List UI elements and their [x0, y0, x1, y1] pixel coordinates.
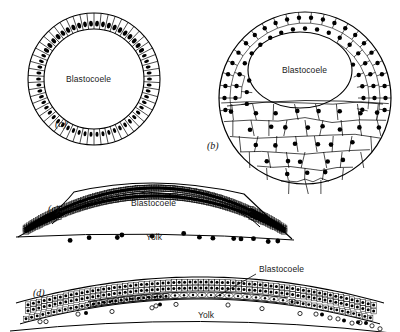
panel-d-nucleus	[369, 316, 372, 319]
panel-c-label: (c)	[48, 203, 59, 214]
panel-d-nucleus	[70, 299, 73, 302]
panel-d-nucleus	[246, 296, 248, 298]
panel-d-nucleus	[102, 294, 105, 297]
panel-b-nucleus	[222, 96, 226, 100]
panel-b-nucleus	[237, 72, 241, 76]
panel-d-nucleus	[183, 287, 186, 290]
panel-d-nucleus	[351, 298, 354, 301]
panel-b-nucleus	[268, 36, 272, 40]
panel-b-nucleus	[283, 125, 288, 130]
panel-d-nucleus	[324, 299, 327, 302]
panel-d-nucleus	[221, 287, 224, 290]
panel-d-nucleus	[91, 295, 94, 298]
panel-d-yolk-granule	[298, 311, 302, 315]
panel-d-nucleus	[162, 282, 165, 285]
panel-c-yolk-nucleus	[115, 235, 120, 240]
panel-d-nucleus	[109, 300, 112, 303]
panel-b-nucleus	[362, 41, 366, 45]
panel-b-nucleus	[291, 27, 295, 31]
panel-b-nucleus	[273, 21, 277, 25]
panel-d-nucleus	[69, 307, 72, 310]
panel-b-nucleus	[248, 127, 253, 132]
panel-d-yolk-granule	[328, 316, 332, 320]
panel-d-nucleus	[86, 296, 89, 299]
panel-b-cavity-label: Blastocoele	[282, 65, 327, 75]
panel-d-nucleus	[156, 282, 159, 285]
panel-b-nucleus	[377, 125, 382, 130]
panel-b-nucleus	[368, 72, 372, 76]
panel-b-nucleus	[357, 73, 361, 77]
panel-d-nucleus	[259, 289, 262, 292]
panel-d-nucleus	[189, 281, 192, 284]
panel-d-nucleus	[172, 281, 175, 284]
panel-b-nucleus	[372, 96, 376, 100]
panel-d-nucleus	[296, 301, 299, 304]
panel-c-yolk-nucleus	[251, 236, 256, 241]
panel-d-nucleus	[243, 288, 246, 291]
panel-c-cavity-label: Blastocoele	[131, 198, 176, 208]
panel-d-yolk-granule	[44, 320, 48, 324]
panel-d-nucleus	[59, 302, 62, 305]
panel-d-nucleus	[232, 281, 235, 284]
panel-b-nucleus	[338, 36, 342, 40]
panel-d-nucleus	[307, 303, 310, 306]
panel-d-nucleus	[64, 294, 67, 297]
panel-d-nucleus	[81, 305, 84, 308]
panel-d-yolk-envelope	[10, 321, 392, 332]
panel-d-yolk-granule	[260, 307, 264, 311]
panel-d-nucleus	[324, 293, 327, 296]
panel-d-nucleus	[75, 306, 78, 309]
panel-d-nucleus	[273, 298, 275, 300]
panel-d-nucleus	[367, 302, 370, 305]
panel-d-nucleus	[125, 298, 128, 301]
panel-b-nucleus	[320, 124, 325, 129]
panel-d-nucleus	[248, 282, 251, 285]
panel-d-label: (d)	[33, 287, 45, 298]
panel-d-nucleus	[48, 298, 51, 301]
panel-d-nucleus	[313, 304, 316, 307]
panel-d-nucleus	[347, 311, 350, 314]
panel-c-yolk-nucleus	[275, 239, 280, 244]
panel-b-nucleus	[223, 84, 227, 88]
panel-d-yolk-nucleus	[342, 318, 346, 322]
panel-b-nucleus	[273, 143, 278, 148]
panel-b-large-cell-boundary	[249, 152, 250, 168]
panel-a-cavity-label: Blastocoele	[66, 74, 111, 84]
panel-c-yolk-nucleus	[211, 236, 216, 241]
panel-d-nucleus	[114, 300, 117, 303]
panel-b-nucleus	[357, 125, 362, 130]
panel-d-nucleus	[318, 298, 321, 301]
panel-b-nucleus	[356, 51, 360, 55]
panel-d-nucleus	[358, 314, 361, 317]
panel-d-yolk-granule	[370, 324, 374, 328]
panel-d-nucleus	[86, 290, 89, 293]
panel-c-yolk-nucleus	[181, 231, 186, 236]
panel-d-nucleus	[248, 288, 251, 291]
panel-b-nucleus	[293, 142, 298, 147]
panel-d-yolk-nucleus	[320, 313, 324, 317]
panel-d-nucleus	[59, 296, 62, 299]
panel-d-nucleus	[120, 299, 123, 302]
panel-b-nucleus	[375, 110, 380, 115]
panel-d-nucleus	[159, 295, 162, 298]
panel-d-nucleus	[237, 288, 240, 291]
panel-b-nucleus	[298, 159, 303, 164]
panel-b-nucleus	[309, 16, 313, 20]
panel-b-nucleus	[285, 17, 289, 21]
panel-d-nucleus	[318, 292, 321, 295]
panel-b-nucleus	[343, 26, 347, 30]
panel-d-nucleus	[43, 305, 46, 308]
panel-d-nucleus	[275, 291, 278, 294]
panel-d-nucleus	[27, 309, 30, 312]
panel-d-nucleus	[216, 281, 219, 284]
panel-d-nucleus	[36, 314, 39, 317]
panel-d-nucleus	[108, 287, 111, 290]
panel-d-nucleus	[270, 284, 273, 287]
panel-d-nucleus	[58, 309, 61, 312]
panel-d-nucleus	[275, 285, 278, 288]
panel-d-nucleus	[86, 304, 89, 307]
panel-d-nucleus	[162, 288, 165, 291]
panel-d-nucleus	[302, 302, 305, 305]
panel-d-nucleus	[199, 287, 202, 290]
panel-d-nucleus	[75, 298, 78, 301]
